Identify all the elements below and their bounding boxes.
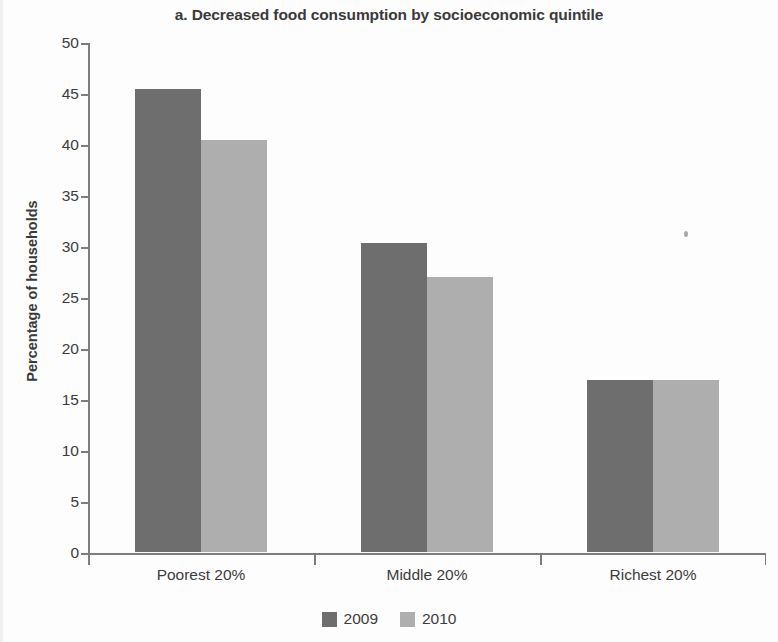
y-axis-tick-mark	[81, 349, 88, 351]
y-axis-tick-label: 30	[62, 238, 79, 256]
x-axis-category-label: Richest 20%	[609, 566, 696, 584]
bar	[361, 243, 427, 551]
bar	[427, 277, 493, 551]
y-axis-line	[88, 43, 90, 554]
y-axis-title: Percentage of households	[24, 161, 40, 421]
plot-area: 05101520253035404550 Poorest 20%Middle 2…	[88, 43, 766, 553]
y-axis-tick-mark	[81, 247, 88, 249]
y-axis-tick-label: 45	[62, 85, 79, 103]
x-axis-tick-mark	[88, 554, 90, 565]
y-axis-tick-mark	[81, 298, 88, 300]
bar	[587, 380, 653, 551]
chart-figure: a. Decreased food consumption by socioec…	[0, 0, 778, 642]
legend-entry: 2010	[400, 610, 456, 628]
legend-swatch	[322, 612, 337, 627]
bar	[201, 140, 267, 551]
y-axis-tick-mark	[81, 43, 88, 45]
legend-label: 2010	[422, 610, 456, 628]
x-axis-line	[88, 553, 766, 555]
scan-artifact-speck	[684, 231, 688, 237]
y-axis-tick-mark	[81, 502, 88, 504]
x-axis-tick-mark	[765, 554, 767, 565]
y-axis-tick-label: 25	[62, 289, 79, 307]
y-axis-tick-mark	[81, 196, 88, 198]
y-axis-tick-mark	[81, 94, 88, 96]
y-axis-tick-label: 20	[62, 340, 79, 358]
legend-entry: 2009	[322, 610, 378, 628]
y-axis-tick-label: 35	[62, 187, 79, 205]
bar	[135, 89, 201, 551]
legend-swatch	[400, 612, 415, 627]
y-axis-tick-mark	[81, 400, 88, 402]
y-axis-tick-label: 5	[70, 493, 79, 511]
chart-title: a. Decreased food consumption by socioec…	[0, 6, 778, 24]
bar	[653, 380, 719, 551]
y-axis-tick-label: 15	[62, 391, 79, 409]
x-axis-tick-mark	[540, 554, 542, 565]
x-axis-tick-mark	[314, 554, 316, 565]
y-axis-tick-mark	[81, 145, 88, 147]
x-axis-category-label: Middle 20%	[387, 566, 468, 584]
chart-legend: 20092010	[0, 610, 778, 628]
scan-page-edge	[0, 0, 3, 642]
y-axis-tick-label: 50	[62, 34, 79, 52]
y-axis-tick-mark	[81, 553, 88, 555]
y-axis-tick-label: 40	[62, 136, 79, 154]
y-axis-tick-label: 10	[62, 442, 79, 460]
y-axis-tick-mark	[81, 451, 88, 453]
x-axis-category-label: Poorest 20%	[157, 566, 246, 584]
y-axis-tick-label: 0	[70, 544, 79, 562]
legend-label: 2009	[344, 610, 378, 628]
